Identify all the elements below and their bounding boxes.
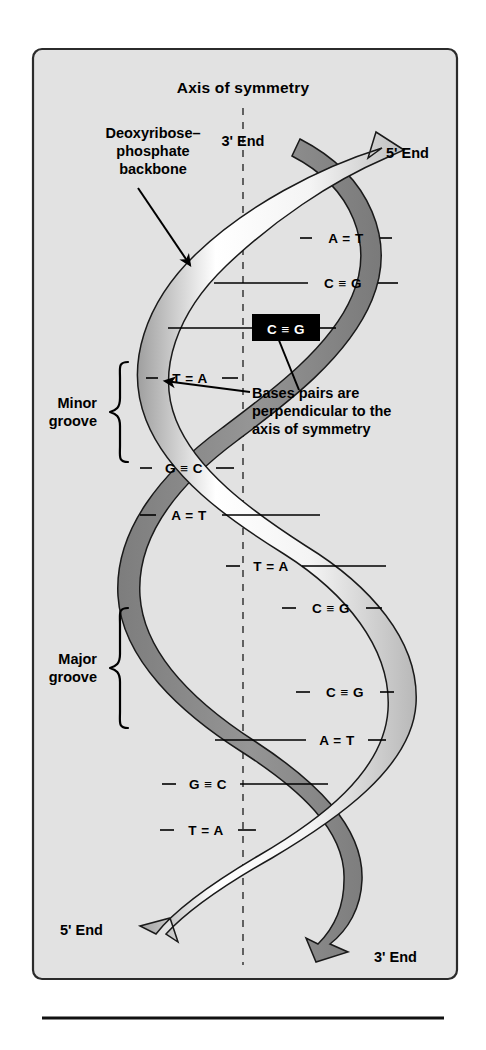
end-label-top-right: 5' End: [386, 145, 429, 161]
base-pair-label-12: T = A: [188, 823, 223, 838]
dna-figure-container: Axis of symmetry 3' End 5' End 5' End 3'…: [0, 0, 486, 1050]
base-pair-label-8: C ≡ G: [312, 601, 350, 616]
end-label-bottom-right: 3' End: [374, 949, 417, 965]
base-pair-label-10: A = T: [319, 733, 355, 748]
base-pair-label-4: T = A: [172, 371, 207, 386]
backbone-label-line1: Deoxyribose–: [105, 125, 200, 141]
base-pair-label-9: C ≡ G: [326, 685, 364, 700]
base-pair-label-5: G ≡ C: [165, 461, 203, 476]
base-pair-label-3: C ≡ G: [267, 322, 305, 337]
dna-double-helix-figure: Axis of symmetry 3' End 5' End 5' End 3'…: [0, 0, 486, 1050]
base-pair-label-11: G ≡ C: [189, 777, 227, 792]
base-pair-label-2: C ≡ G: [324, 276, 362, 291]
base-pair-label-6: A = T: [171, 508, 207, 523]
minor-groove-label-line2: groove: [49, 413, 97, 429]
major-groove-label-line1: Major: [58, 651, 97, 667]
end-label-top-left: 3' End: [222, 133, 265, 149]
minor-groove-label-line1: Minor: [58, 395, 98, 411]
backbone-label-line2: phosphate: [116, 143, 189, 159]
bp-note-line3: axis of symmetry: [252, 421, 370, 437]
end-label-bottom-left: 5' End: [60, 922, 103, 938]
page-title: Axis of symmetry: [177, 79, 310, 96]
base-pair-label-1: A = T: [328, 231, 364, 246]
bp-note-line2: perpendicular to the: [252, 403, 391, 419]
bp-note-line1: Bases pairs are: [252, 385, 359, 401]
backbone-label-line3: backbone: [119, 161, 187, 177]
major-groove-label-line2: groove: [49, 669, 97, 685]
base-pair-label-7: T = A: [253, 559, 288, 574]
